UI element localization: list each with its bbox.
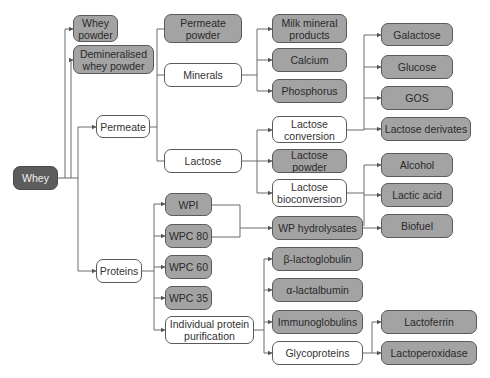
node-gos: GOS — [381, 86, 453, 110]
node-lactose-conversion: Lactose conversion — [272, 116, 347, 143]
node-whey-powder: Whey powder — [73, 15, 118, 42]
node-glucose: Glucose — [381, 55, 453, 79]
node-individual-protein-purification: Individual protein purification — [165, 316, 254, 344]
node-demineralised-whey-powder: Demineralised whey powder — [73, 45, 154, 74]
node-alcohol: Alcohol — [381, 153, 453, 177]
node-alpha-lactalbumin: α-lactalbumin — [272, 278, 363, 302]
node-galactose: Galactose — [381, 23, 453, 46]
node-permeate-powder: Permeate powder — [164, 14, 242, 43]
node-lactose: Lactose — [164, 149, 242, 173]
node-lactic-acid: Lactic acid — [381, 183, 453, 207]
node-milk-mineral-products: Milk mineral products — [272, 14, 347, 43]
node-biofuel: Biofuel — [381, 214, 453, 238]
node-lactose-bioconversion: Lactose bioconversion — [272, 179, 347, 207]
node-wpi: WPI — [165, 193, 212, 216]
node-lactoperoxidase: Lactoperoxidase — [381, 341, 477, 365]
node-lactose-powder: Lactose powder — [272, 149, 347, 173]
whey-processing-diagram: Whey Whey powder Demineralised whey powd… — [0, 0, 490, 378]
node-lactoferrin: Lactoferrin — [381, 310, 477, 334]
node-beta-lactoglobulin: β-lactoglobulin — [272, 247, 363, 271]
node-wpc60: WPC 60 — [165, 255, 212, 279]
node-wpc80: WPC 80 — [165, 224, 212, 248]
node-phosphorus: Phosphorus — [272, 79, 347, 103]
node-wp-hydrolysates: WP hydrolysates — [272, 216, 363, 240]
node-lactose-derivates: Lactose derivates — [381, 117, 471, 141]
node-minerals: Minerals — [164, 63, 242, 87]
node-wpc35: WPC 35 — [165, 286, 212, 310]
node-immunoglobulins: Immunoglobulins — [272, 310, 363, 334]
node-glycoproteins: Glycoproteins — [272, 341, 363, 365]
node-permeate: Permeate — [96, 115, 150, 138]
node-whey: Whey — [13, 166, 58, 190]
node-proteins: Proteins — [96, 259, 142, 283]
node-calcium: Calcium — [272, 48, 347, 72]
